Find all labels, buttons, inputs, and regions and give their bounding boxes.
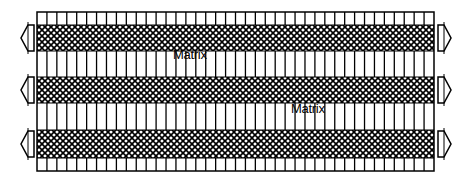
matrix-layer xyxy=(47,12,424,25)
matrix-layer xyxy=(47,103,424,130)
fiber-layer xyxy=(37,25,434,51)
matrix-label-2: Matrix xyxy=(291,101,325,116)
fiber-layer xyxy=(37,130,434,158)
layer-bands xyxy=(37,12,434,171)
fiber-layer xyxy=(37,77,434,103)
matrix-layer xyxy=(47,158,424,171)
laminate-diagram xyxy=(0,0,472,180)
matrix-label-1: Matrix xyxy=(173,47,207,62)
matrix-layer xyxy=(47,51,424,77)
